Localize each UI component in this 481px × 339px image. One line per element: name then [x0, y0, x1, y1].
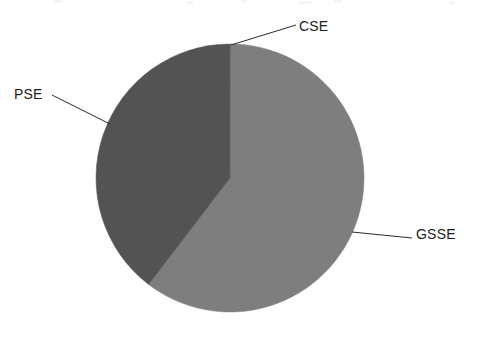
- pie-chart-canvas: [0, 0, 481, 339]
- pie-label-gsse: GSSE: [416, 226, 456, 242]
- leader-line-gsse: [352, 232, 412, 238]
- pie-label-pse: PSE: [14, 86, 43, 102]
- pie-slice-group: [96, 44, 364, 312]
- leader-line-cse: [231, 25, 296, 45]
- pie-chart-screenshot: CSE PSE GSSE: [0, 0, 481, 339]
- pie-label-cse: CSE: [299, 18, 328, 34]
- leader-line-pse: [52, 95, 110, 124]
